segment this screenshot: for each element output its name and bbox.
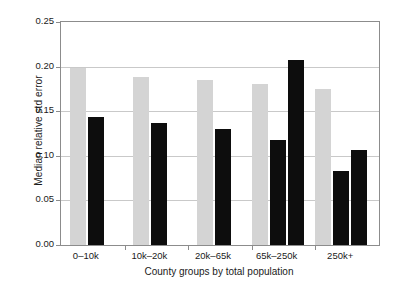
y-tick-mark bbox=[56, 245, 61, 246]
bar bbox=[315, 89, 331, 245]
x-tick-label: 10k–20k bbox=[131, 250, 167, 261]
x-axis-tick-labels: 0–10k10k–20k20k–65k65k–250k250k+ bbox=[60, 250, 378, 264]
y-tick-label: 0.10 bbox=[20, 150, 54, 160]
x-axis-title: County groups by total population bbox=[60, 266, 378, 277]
plot-inner bbox=[61, 22, 379, 245]
bar bbox=[197, 80, 213, 245]
y-tick-mark bbox=[56, 67, 61, 68]
bar bbox=[351, 150, 367, 245]
y-axis-tick-labels: 0.000.050.100.150.200.25 bbox=[14, 0, 54, 296]
y-tick-mark bbox=[56, 156, 61, 157]
bar bbox=[215, 129, 231, 245]
y-tick-mark bbox=[56, 200, 61, 201]
plot-area bbox=[60, 21, 380, 246]
x-tick-label: 65k–250k bbox=[256, 250, 297, 261]
y-tick-mark bbox=[56, 111, 61, 112]
y-tick-label: 0.00 bbox=[20, 239, 54, 249]
bar bbox=[70, 68, 86, 246]
bar bbox=[333, 171, 349, 245]
y-tick-mark bbox=[56, 22, 61, 23]
bar bbox=[151, 123, 167, 245]
gridline bbox=[61, 67, 379, 68]
chart-figure: Median relative std error 0.000.050.100.… bbox=[0, 0, 399, 296]
gridline bbox=[61, 111, 379, 112]
y-tick-label: 0.25 bbox=[20, 16, 54, 26]
x-tick-label: 0–10k bbox=[73, 250, 99, 261]
x-tick-label: 20k–65k bbox=[195, 250, 231, 261]
bar bbox=[88, 117, 104, 245]
bar bbox=[288, 60, 304, 245]
x-tick-label: 250k+ bbox=[327, 250, 353, 261]
bar bbox=[270, 140, 286, 245]
y-tick-label: 0.20 bbox=[20, 61, 54, 71]
bar bbox=[252, 84, 268, 245]
y-tick-label: 0.05 bbox=[20, 194, 54, 204]
bar bbox=[133, 77, 149, 245]
y-tick-label: 0.15 bbox=[20, 105, 54, 115]
